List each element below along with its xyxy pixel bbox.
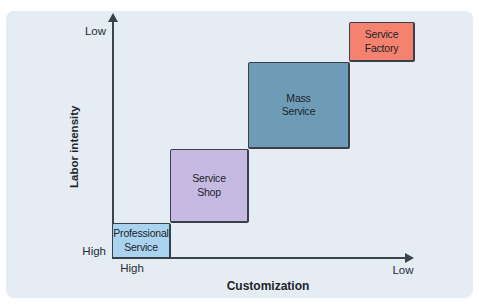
box-service-shop-label: Service Shop	[192, 172, 226, 198]
box-professional-service-label: Professional Service	[113, 227, 168, 253]
x-axis-left-label: High	[110, 263, 154, 275]
label-line-1: Service	[365, 28, 399, 40]
label-line-1: Professional	[113, 227, 168, 239]
label-line-2: Service	[124, 241, 158, 253]
x-axis-right-label: Low	[383, 265, 423, 277]
figure-service-process-matrix: Low High High Low Labor intensity Custom…	[0, 0, 479, 307]
y-axis-arrow-icon	[108, 13, 118, 22]
y-axis-bottom-label: High	[66, 246, 106, 258]
box-service-shop: Service Shop	[170, 149, 249, 223]
label-line-2: Factory	[365, 42, 399, 54]
label-line-1: Service	[192, 172, 226, 184]
label-line-1: Mass	[286, 92, 310, 104]
box-mass-service: Mass Service	[248, 62, 350, 149]
box-service-factory: Service Factory	[349, 22, 415, 62]
label-line-2: Service	[282, 105, 316, 117]
y-axis-title: Labor intensity	[69, 87, 81, 207]
y-axis-top-label: Low	[66, 26, 106, 38]
box-mass-service-label: Mass Service	[282, 92, 316, 118]
label-line-2: Shop	[197, 186, 221, 198]
box-professional-service: Professional Service	[112, 223, 171, 259]
box-service-factory-label: Service Factory	[365, 28, 399, 54]
x-axis-arrow-icon	[405, 253, 414, 263]
x-axis-title: Customization	[188, 280, 348, 292]
